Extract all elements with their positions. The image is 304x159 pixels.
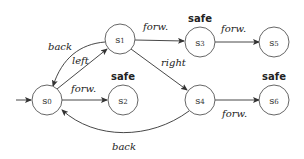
- edge-label-left: left: [72, 55, 90, 66]
- node-s6: s6 safe: [259, 71, 289, 115]
- edge-label-forw-s0-s2: forw.: [70, 83, 96, 94]
- node-s0: s0: [32, 85, 62, 115]
- edge-label-forw-s4-s6: forw.: [221, 108, 247, 119]
- edge-label-back-top: back: [48, 41, 72, 52]
- edge-label-forw-s1-s3: forw.: [142, 21, 168, 32]
- edge-label-forw-s3-s5: forw.: [220, 23, 246, 34]
- node-s1: s1: [105, 24, 135, 54]
- safe-label-s3: safe: [188, 13, 212, 24]
- state-diagram: back left forw. forw. right forw. forw. …: [0, 0, 304, 159]
- node-s4: s4: [185, 85, 215, 115]
- edge-label-back-bottom: back: [112, 141, 136, 152]
- edge-label-right: right: [161, 57, 187, 68]
- safe-label-s2: safe: [111, 71, 135, 82]
- node-s3: s3 safe: [185, 13, 215, 57]
- edge-s1-s4-right: [131, 49, 187, 90]
- node-s2: s2 safe: [108, 71, 138, 115]
- node-s5: s5: [259, 27, 289, 57]
- safe-label-s6: safe: [262, 71, 286, 82]
- edge-s1-s3-forw: [135, 40, 184, 41]
